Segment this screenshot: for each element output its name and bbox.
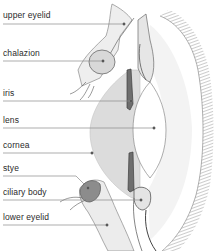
- eye-anatomy-diagram: upper eyelid chalazion iris lens cornea …: [0, 0, 215, 251]
- label-lens: lens: [3, 115, 19, 125]
- label-chalazion: chalazion: [3, 48, 40, 58]
- label-upper-eyelid: upper eyelid: [3, 10, 51, 20]
- label-stye: stye: [3, 163, 19, 173]
- label-lower-eyelid: lower eyelid: [3, 212, 49, 222]
- lower-iris: [128, 152, 134, 192]
- label-ciliary-body: ciliary body: [3, 187, 47, 197]
- label-iris: iris: [3, 88, 14, 98]
- label-cornea: cornea: [3, 140, 30, 150]
- upper-ciliary-tissue: [138, 14, 154, 82]
